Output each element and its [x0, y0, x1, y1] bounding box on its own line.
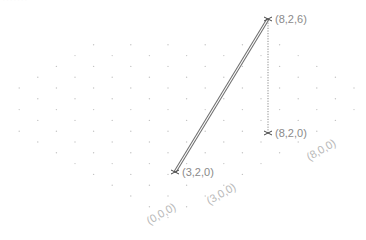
grid-dot	[223, 77, 224, 78]
grid-dot	[167, 87, 168, 88]
grid-dot	[93, 44, 94, 45]
grid-dot	[242, 87, 243, 88]
grid-dot	[279, 66, 280, 67]
grid-dot	[19, 109, 20, 110]
grid-dot	[242, 131, 243, 132]
grid-dot	[74, 163, 75, 164]
grid-dot	[112, 55, 113, 56]
grid-dot	[130, 109, 131, 110]
grid-dot	[167, 152, 168, 153]
grid-dot	[186, 77, 187, 78]
grid-dot	[93, 174, 94, 175]
grid-dot	[223, 120, 224, 121]
grid-dot	[316, 87, 317, 88]
grid-dot	[353, 87, 354, 88]
grid-dot	[186, 120, 187, 121]
grid-dot	[223, 98, 224, 99]
grid-dot	[298, 120, 299, 121]
grid-dot	[149, 55, 150, 56]
grid-dot	[112, 163, 113, 164]
grid-dot	[37, 98, 38, 99]
grid-dot	[335, 98, 336, 99]
grid-dot	[242, 109, 243, 110]
grid-dot	[93, 152, 94, 153]
grid-dot	[130, 152, 131, 153]
grid-dot	[260, 163, 261, 164]
grid-dot	[19, 87, 20, 88]
grid-dot	[298, 77, 299, 78]
grid-dot	[149, 77, 150, 78]
grid-dot	[37, 77, 38, 78]
grid-dot	[167, 195, 168, 196]
grid-dot	[353, 109, 354, 110]
grid-dot	[130, 174, 131, 175]
grid-dot	[167, 131, 168, 132]
grid-dot	[298, 98, 299, 99]
grid-dot	[112, 98, 113, 99]
grid-dot	[223, 55, 224, 56]
grid-dot	[149, 98, 150, 99]
grid-dot	[149, 163, 150, 164]
grid-dot	[130, 131, 131, 132]
point-label: (8,2,6)	[275, 13, 307, 25]
grid-dot	[167, 66, 168, 67]
grid-dot	[260, 77, 261, 78]
grid-dot	[260, 120, 261, 121]
grid-dot	[74, 55, 75, 56]
grid-dot	[298, 55, 299, 56]
grid-dot	[112, 77, 113, 78]
isometric-diagram: ······· (3,2,0) (8,2,6) (8,2,0) (0,0,0) …	[0, 0, 366, 240]
grid-dot	[37, 141, 38, 142]
grid-dot	[205, 152, 206, 153]
grid-dot	[260, 141, 261, 142]
grid-dot	[56, 152, 57, 153]
grid-dot	[74, 120, 75, 121]
grid-dot	[279, 44, 280, 45]
grid-dot	[167, 109, 168, 110]
grid-dot	[130, 66, 131, 67]
grid-dot	[260, 98, 261, 99]
axis-label: (8,0,0)	[304, 136, 338, 162]
grid-dot	[149, 206, 150, 207]
grid-dot	[335, 77, 336, 78]
grid-dot	[167, 217, 168, 218]
grid-dot	[279, 87, 280, 88]
grid-dot	[186, 55, 187, 56]
grid-dot	[56, 66, 57, 67]
grid-dot	[186, 163, 187, 164]
grid-dot	[242, 66, 243, 67]
grid-dot	[112, 185, 113, 186]
grid-dot	[130, 195, 131, 196]
grid-dot	[149, 120, 150, 121]
x-marker-icon	[264, 131, 272, 135]
grid-dot	[130, 87, 131, 88]
axis-label: (3,0,0)	[204, 180, 238, 206]
grid-dot	[205, 131, 206, 132]
grid-dot	[19, 131, 20, 132]
grid-dot	[223, 163, 224, 164]
grid-dot	[335, 120, 336, 121]
grid-dot	[242, 152, 243, 153]
grid-dot	[37, 120, 38, 121]
point-label: (8,2,0)	[275, 127, 307, 139]
grid-dot	[242, 44, 243, 45]
grid-dot	[149, 185, 150, 186]
grid-dot	[167, 174, 168, 175]
segment-3-2-0-to-8-2-6	[175, 19, 268, 172]
grid-dot	[130, 44, 131, 45]
axis-label: (0,0,0)	[144, 200, 178, 226]
grid-dot	[316, 131, 317, 132]
grid-dot	[112, 120, 113, 121]
grid-dot	[205, 87, 206, 88]
grid-dot	[316, 66, 317, 67]
point-label: (3,2,0)	[182, 166, 214, 178]
grid-dot	[205, 44, 206, 45]
clipped-top-text: ·······	[2, 0, 28, 5]
grid-dot	[242, 174, 243, 175]
grid-dot	[56, 131, 57, 132]
grid-dot	[298, 141, 299, 142]
grid-dot	[93, 66, 94, 67]
grid-dot	[279, 109, 280, 110]
grid-dot	[56, 109, 57, 110]
grid-dot	[223, 141, 224, 142]
